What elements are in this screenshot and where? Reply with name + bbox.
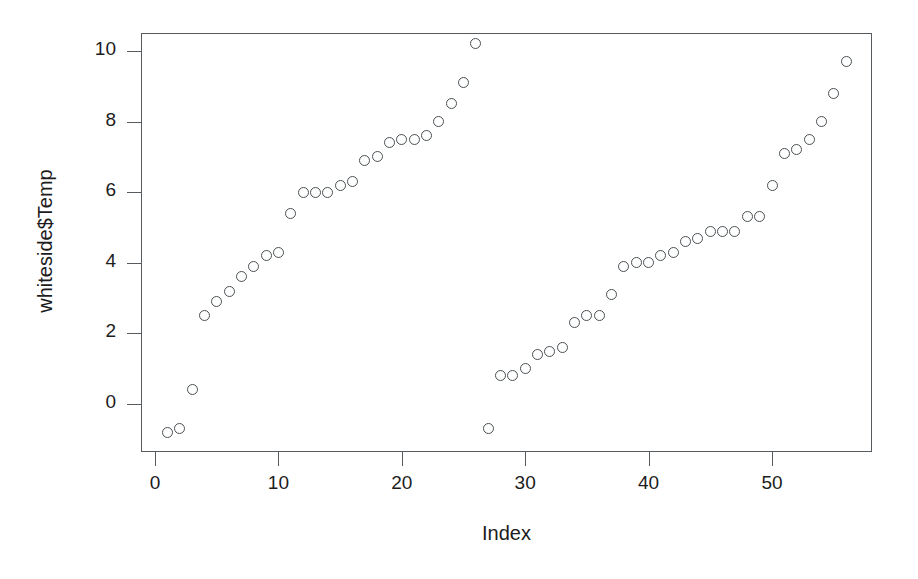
x-axis-title: Index	[141, 522, 872, 545]
y-axis-tick-label: 2	[56, 320, 116, 342]
y-axis-tick-label: 8	[56, 109, 116, 131]
plot-frame	[141, 33, 872, 452]
y-axis-tick-label: 10	[56, 38, 116, 60]
x-axis-tick	[772, 452, 773, 466]
x-axis-tick	[402, 452, 403, 466]
y-axis-tick-label: 0	[56, 391, 116, 413]
x-axis-tick	[155, 452, 156, 466]
x-axis-tick-label: 50	[742, 472, 802, 494]
y-axis-tick	[127, 404, 141, 405]
y-axis-tick	[127, 333, 141, 334]
x-axis-tick	[525, 452, 526, 466]
scatter-plot-figure: 0246810 01020304050 whiteside$Temp Index	[0, 0, 918, 579]
x-axis-tick-label: 40	[619, 472, 679, 494]
x-axis-tick	[278, 452, 279, 466]
x-axis-tick-label: 10	[248, 472, 308, 494]
y-axis-tick-label: 6	[56, 179, 116, 201]
y-axis-tick	[127, 263, 141, 264]
y-axis-tick-label: 4	[56, 250, 116, 272]
y-axis-tick	[127, 122, 141, 123]
y-axis-title: whiteside$Temp	[30, 32, 60, 451]
x-axis-tick	[649, 452, 650, 466]
x-axis-tick-label: 30	[495, 472, 555, 494]
y-axis-tick	[127, 51, 141, 52]
x-axis-tick-label: 0	[125, 472, 185, 494]
x-axis-tick-label: 20	[372, 472, 432, 494]
y-axis-tick	[127, 192, 141, 193]
